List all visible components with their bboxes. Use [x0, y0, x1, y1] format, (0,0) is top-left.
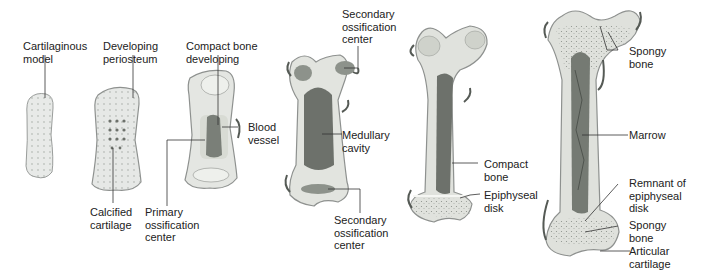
stage-6-mature-bone: [543, 11, 640, 256]
label-developing-periosteum: Developing periosteum: [103, 40, 158, 65]
stage-3-primary-ossification: [185, 70, 240, 188]
stage-2-developing-periosteum: [92, 87, 141, 190]
label-cartilaginous-model: Cartilaginous model: [23, 40, 87, 65]
label-secondary-ossification-center-bottom: Secondary ossification center: [334, 214, 388, 252]
label-epiphyseal-disk: Epiphyseal disk: [484, 189, 538, 214]
label-secondary-ossification-center-top: Secondary ossification center: [342, 8, 396, 46]
stage-5-compact-bone: [408, 26, 487, 222]
label-compact-bone-developing: Compact bone developing: [186, 40, 258, 65]
stage-1-cartilaginous-model: [26, 94, 53, 178]
label-primary-ossification-center: Primary ossification center: [145, 206, 199, 244]
bone-development-diagram: Cartilaginous model Developing periosteu…: [0, 0, 701, 277]
label-calcified-cartilage: Calcified cartilage: [90, 206, 132, 231]
label-articular-cartilage: Articular cartilage: [629, 245, 671, 270]
label-remnant-of-epiphyseal-disk: Remnant of epiphyseal disk: [629, 177, 686, 215]
label-spongy-bone-bottom: Spongy bone: [629, 219, 666, 244]
label-compact-bone: Compact bone: [484, 158, 528, 183]
label-spongy-bone-top: Spongy bone: [629, 45, 666, 70]
label-blood-vessel: Blood vessel: [248, 121, 279, 146]
label-marrow: Marrow: [629, 129, 666, 142]
label-medullary-cavity: Medullary cavity: [342, 129, 390, 154]
